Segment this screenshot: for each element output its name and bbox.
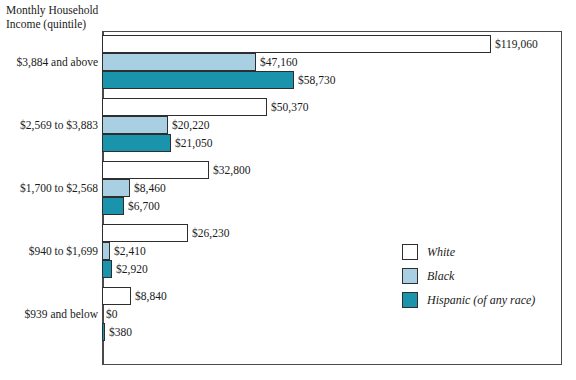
bar-value-label: $2,410 — [114, 243, 146, 259]
bar-row: $21,050 — [0, 134, 576, 152]
bar-value-label: $50,370 — [271, 99, 308, 115]
bar-hispanic[interactable] — [102, 71, 294, 89]
bar-value-label: $2,920 — [116, 261, 148, 277]
bar-group: $1,700 to $2,568$32,800$8,460$6,700 — [0, 161, 576, 215]
bar-black[interactable] — [102, 53, 256, 71]
bar-black[interactable] — [102, 179, 130, 197]
bar-white[interactable] — [102, 35, 491, 53]
bar-groups: $3,884 and above$119,060$47,160$58,730$2… — [0, 31, 576, 365]
legend: WhiteBlackHispanic (of any race) — [402, 240, 562, 312]
bar-row: $6,700 — [0, 197, 576, 215]
bar-group: $3,884 and above$119,060$47,160$58,730 — [0, 35, 576, 89]
bar-row: $20,220 — [0, 116, 576, 134]
legend-swatch-icon — [402, 268, 418, 284]
bar-value-label: $8,840 — [135, 288, 167, 304]
bar-hispanic[interactable] — [102, 197, 124, 215]
legend-item[interactable]: White — [402, 240, 562, 264]
bar-row: $8,460 — [0, 179, 576, 197]
bar-value-label: $47,160 — [260, 54, 297, 70]
bar-value-label: $380 — [109, 324, 132, 340]
bar-row: $58,730 — [0, 71, 576, 89]
bar-value-label: $32,800 — [213, 162, 250, 178]
bar-value-label: $119,060 — [495, 36, 538, 52]
bar-black[interactable] — [102, 116, 168, 134]
bar-value-label: $58,730 — [298, 72, 335, 88]
bar-row: $32,800 — [0, 161, 576, 179]
legend-label: Hispanic (of any race) — [427, 293, 535, 308]
bar-row: $50,370 — [0, 98, 576, 116]
legend-swatch-icon — [402, 244, 418, 260]
bar-group: $2,569 to $3,883$50,370$20,220$21,050 — [0, 98, 576, 152]
bar-hispanic[interactable] — [102, 134, 171, 152]
legend-item[interactable]: Black — [402, 264, 562, 288]
bar-row: $380 — [0, 323, 576, 341]
bar-value-label: $21,050 — [175, 135, 212, 151]
bar-value-label: $6,700 — [128, 198, 160, 214]
bar-row: $47,160 — [0, 53, 576, 71]
bar-value-label: $20,220 — [172, 117, 209, 133]
legend-label: Black — [427, 269, 454, 284]
legend-item[interactable]: Hispanic (of any race) — [402, 288, 562, 312]
bar-white[interactable] — [102, 98, 267, 116]
bar-black[interactable] — [102, 242, 110, 260]
bar-white[interactable] — [102, 161, 209, 179]
bar-value-label: $26,230 — [192, 225, 229, 241]
bar-hispanic[interactable] — [102, 260, 112, 278]
bar-row: $119,060 — [0, 35, 576, 53]
bar-white[interactable] — [102, 224, 188, 242]
legend-label: White — [427, 245, 455, 260]
bar-value-label: $0 — [106, 306, 118, 322]
bar-white[interactable] — [102, 287, 131, 305]
page-title: Monthly Household Income (quintile) — [6, 3, 186, 31]
bar-hispanic[interactable] — [102, 323, 105, 341]
bar-value-label: $8,460 — [134, 180, 166, 196]
legend-swatch-icon — [402, 292, 418, 308]
